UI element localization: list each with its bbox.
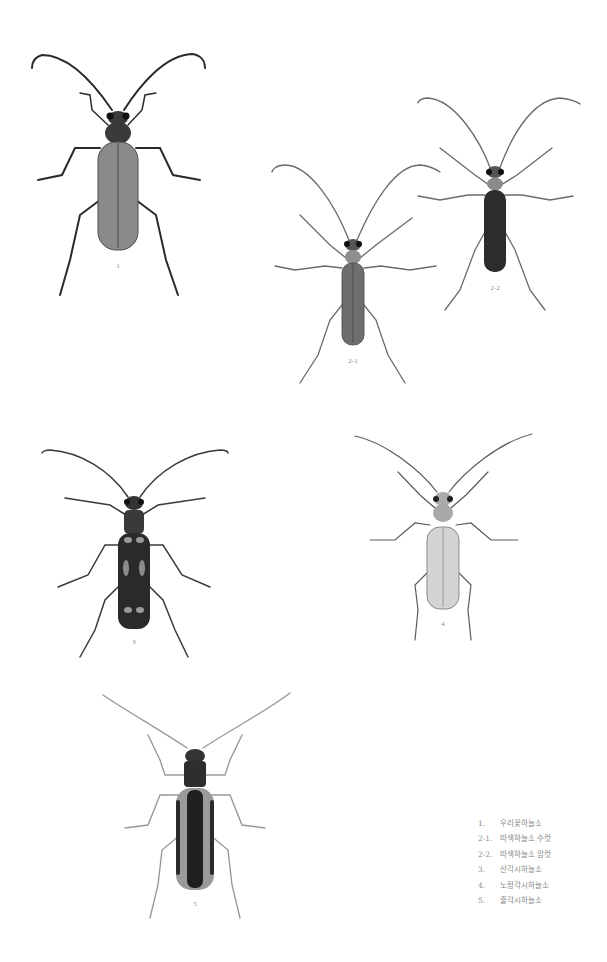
legend-species-name: 산각시하늘소	[500, 862, 542, 877]
legend-species-name: 우리꽃하늘소	[500, 816, 542, 831]
legend-species-name: 따색하늘소 암컷	[500, 847, 551, 862]
legend-item: 2-2. 따색하늘소 암컷	[478, 847, 603, 862]
legend-species-name: 줄각시하늘소	[500, 893, 542, 908]
legend-number: 4.	[478, 878, 500, 893]
legend-species-name: 노랑각시하늘소	[500, 878, 549, 893]
legend-species-name: 따색하늘소 수컷	[500, 831, 551, 846]
figure-label: 5	[193, 900, 197, 908]
legend-item: 1. 우리꽃하늘소	[478, 816, 603, 831]
legend-number: 3.	[478, 862, 500, 877]
legend-number: 1.	[478, 816, 500, 831]
legend-number: 2-1.	[478, 831, 500, 846]
species-legend: 1. 우리꽃하늘소 2-1. 따색하늘소 수컷 2-2. 따색하늘소 암컷 3.…	[478, 816, 603, 908]
legend-number: 2-2.	[478, 847, 500, 862]
legend-item: 3. 산각시하늘소	[478, 862, 603, 877]
legend-item: 4. 노랑각시하늘소	[478, 878, 603, 893]
legend-item: 2-1. 따색하늘소 수컷	[478, 831, 603, 846]
legend-number: 5.	[478, 893, 500, 908]
legend-item: 5. 줄각시하늘소	[478, 893, 603, 908]
